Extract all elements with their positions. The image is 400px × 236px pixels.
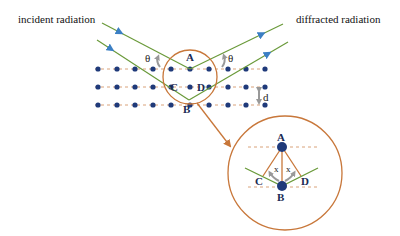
incident-radiation-label: incident radiation [18,13,96,25]
zoomed-detail: A B C D x x [228,116,342,230]
lattice-atom [95,84,100,89]
zoom-connector-line [197,103,230,146]
lattice-atom [150,84,155,89]
d-label: d [263,91,269,103]
x-label-left: x [274,164,279,174]
zoom-point-b-label: B [277,191,285,203]
diagram-canvas: incident radiation diffracted radiation … [0,0,400,236]
lattice-atom [168,66,173,71]
lattice-atom [132,102,137,107]
lattice-atom [187,84,192,89]
point-c-label: C [170,81,178,93]
lattice-atom [206,102,211,107]
lattice-atom [114,66,119,71]
lattice-atom [206,66,211,71]
lattice-atom [132,66,137,71]
lattice-atom [225,84,230,89]
atom-a-zoomed [277,142,287,152]
lattice-atom [262,84,267,89]
lattice-atom [150,66,155,71]
atom-b-zoomed [277,181,287,191]
lattice-atom [95,102,100,107]
theta-label-diffracted: θ [228,52,233,64]
lattice-atom [114,102,119,107]
lattice-atom [150,102,155,107]
diffracted-radiation-label: diffracted radiation [296,13,381,25]
bragg-diffraction-diagram: incident radiation diffracted radiation … [0,0,400,236]
lattice-atom [243,102,248,107]
lattice-atom [132,84,137,89]
zoom-point-d-label: D [301,175,309,187]
point-a-label: A [186,51,194,63]
lattice-atom [225,66,230,71]
point-b-label: B [183,103,191,115]
lattice-atom [225,102,230,107]
lattice-atom [168,102,173,107]
lattice-atom [114,84,119,89]
point-d-label: D [197,81,205,93]
lattice-atom [262,102,267,107]
zoom-point-a-label: A [277,131,285,143]
zoom-detail-circle [228,116,342,230]
zoom-point-c-label: C [255,175,263,187]
theta-label-incident: θ [145,52,150,64]
x-label-right: x [286,164,291,174]
lattice-atom [95,66,100,71]
lattice-atom [243,84,248,89]
diffracted-arrowheads [256,34,268,57]
lattice-planes [95,69,268,105]
lattice-atom [262,66,267,71]
